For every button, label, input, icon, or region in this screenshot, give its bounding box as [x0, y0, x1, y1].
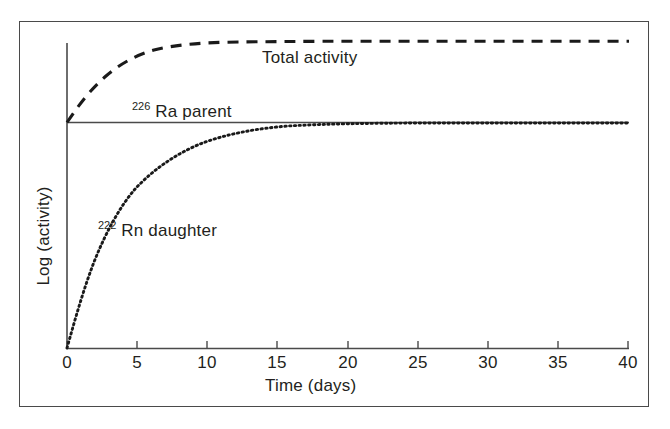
- x-axis-title: Time (days): [265, 376, 356, 396]
- figure-container: 0 5 10 15 20 25 30 35 40 Time (days) Log…: [0, 0, 670, 429]
- x-axis-ticks: [67, 341, 628, 349]
- x-tick-label-15: 15: [257, 353, 297, 373]
- x-tick-label-25: 25: [398, 353, 438, 373]
- x-tick-label-10: 10: [187, 353, 227, 373]
- x-tick-label-30: 30: [468, 353, 508, 373]
- rn-mass-number: 222: [98, 219, 116, 231]
- x-tick-label-5: 5: [117, 353, 157, 373]
- x-tick-label-35: 35: [538, 353, 578, 373]
- rn-daughter-text: Rn daughter: [116, 221, 217, 240]
- ra-mass-number: 226: [132, 100, 150, 112]
- series-label-rn-daughter: 222 Rn daughter: [98, 219, 217, 241]
- x-tick-label-0: 0: [47, 353, 87, 373]
- ra-parent-text: Ra parent: [150, 102, 231, 121]
- x-tick-label-40: 40: [608, 353, 648, 373]
- series-label-ra-parent: 226 Ra parent: [132, 100, 232, 122]
- series-label-total-activity: Total activity: [262, 48, 357, 68]
- y-axis-title: Log (activity): [34, 156, 54, 316]
- x-tick-label-20: 20: [328, 353, 368, 373]
